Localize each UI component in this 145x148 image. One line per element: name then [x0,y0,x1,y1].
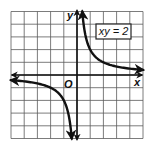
origin-label: O [64,78,73,90]
y-axis-label: y [66,9,74,21]
hyperbola-branch-quadrant-1 [82,12,143,70]
hyperbola-branch-quadrant-3 [11,80,72,138]
equation-label: xy = 2 [98,25,129,37]
x-axis-label: x [133,76,141,88]
hyperbola-graph: y x O xy = 2 [0,0,145,148]
equation-label-box: xy = 2 [96,24,131,39]
